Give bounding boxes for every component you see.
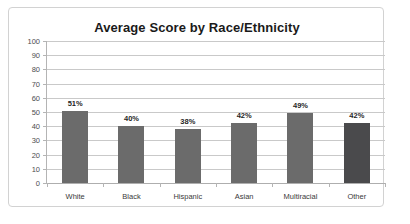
data-label-hispanic: 38%	[180, 117, 195, 126]
y-axis-label-50: 50	[32, 108, 40, 117]
x-tick-6	[385, 183, 386, 187]
y-axis-label-0: 0	[36, 179, 40, 188]
x-axis-label-black: Black	[122, 192, 140, 201]
y-axis-label-30: 30	[32, 136, 40, 145]
data-label-multiracial: 49%	[293, 101, 308, 110]
chart-title: Average Score by Race/Ethnicity	[9, 20, 385, 35]
x-tick-1	[103, 183, 104, 187]
x-axis-label-asian: Asian	[235, 192, 254, 201]
bar-group-hispanic[interactable]: 38%Hispanic	[160, 41, 216, 183]
x-axis-label-hispanic: Hispanic	[173, 192, 202, 201]
x-tick-4	[272, 183, 273, 187]
x-tick-3	[216, 183, 217, 187]
y-axis-label-80: 80	[32, 65, 40, 74]
bar-group-other[interactable]: 42%Other	[329, 41, 385, 183]
plot-area: 010203040506070809010051%White40%Black38…	[47, 41, 385, 183]
data-label-black: 40%	[124, 114, 139, 123]
data-label-other: 42%	[349, 111, 364, 120]
bar-black[interactable]	[118, 126, 144, 183]
bar-other[interactable]	[344, 123, 370, 183]
y-axis-label-60: 60	[32, 93, 40, 102]
data-label-white: 51%	[68, 99, 83, 108]
x-axis-label-other: Other	[347, 192, 366, 201]
bar-group-multiracial[interactable]: 49%Multiracial	[272, 41, 328, 183]
bar-multiracial[interactable]	[287, 113, 313, 183]
y-axis-label-90: 90	[32, 51, 40, 60]
x-axis-label-white: White	[66, 192, 85, 201]
y-axis-label-10: 10	[32, 164, 40, 173]
x-tick-5	[329, 183, 330, 187]
y-axis-label-20: 20	[32, 150, 40, 159]
x-tick-0	[47, 183, 48, 187]
bar-group-black[interactable]: 40%Black	[103, 41, 159, 183]
x-axis-label-multiracial: Multiracial	[284, 192, 318, 201]
y-axis-label-100: 100	[27, 37, 40, 46]
bar-hispanic[interactable]	[175, 129, 201, 183]
bar-white[interactable]	[62, 111, 88, 183]
bar-group-white[interactable]: 51%White	[47, 41, 103, 183]
y-axis-label-70: 70	[32, 79, 40, 88]
y-axis-label-40: 40	[32, 122, 40, 131]
bar-group-asian[interactable]: 42%Asian	[216, 41, 272, 183]
chart-frame: Average Score by Race/Ethnicity 01020304…	[8, 7, 384, 207]
data-label-asian: 42%	[237, 111, 252, 120]
bar-asian[interactable]	[231, 123, 257, 183]
x-tick-2	[160, 183, 161, 187]
